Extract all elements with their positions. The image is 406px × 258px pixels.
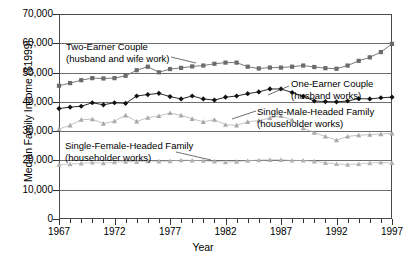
series-label-one-earner-couple: One-Earner Couple (husband works) — [291, 78, 373, 101]
x-tick-1989 — [303, 219, 304, 223]
x-tick-1973 — [126, 219, 127, 223]
x-tick-1992 — [337, 219, 338, 225]
x-tick-1979 — [192, 219, 193, 223]
x-tick-1986 — [270, 219, 271, 223]
x-tick-1969 — [81, 219, 82, 223]
series-label-single-male-headed: Single-Male-Headed Family (householder w… — [257, 106, 374, 129]
gridline-40000 — [60, 102, 391, 103]
series-label-two-earner-line1: Two-Earner Couple — [66, 41, 170, 53]
x-tick-1980 — [203, 219, 204, 223]
y-tick-20000 — [53, 160, 59, 161]
y-axis-labels: 010,00020,00030,00040,00050,00060,00070,… — [0, 0, 53, 258]
gridline-50000 — [60, 73, 391, 74]
x-tick-label-1997: 1997 — [372, 226, 406, 237]
y-tick-label-0: 0 — [1, 214, 53, 224]
x-tick-1975 — [148, 219, 149, 223]
x-tick-1988 — [292, 219, 293, 223]
series-label-single-male-line2: (householder works) — [257, 118, 374, 130]
x-tick-1971 — [103, 219, 104, 223]
x-tick-1984 — [248, 219, 249, 223]
x-tick-label-1987: 1987 — [261, 226, 301, 237]
series-label-single-female-headed: Single-Female-Headed Family (householder… — [65, 140, 193, 163]
x-tick-1977 — [170, 219, 171, 225]
x-tick-1974 — [137, 219, 138, 223]
y-tick-10000 — [53, 190, 59, 191]
x-tick-1982 — [226, 219, 227, 225]
x-tick-1978 — [181, 219, 182, 223]
series-label-single-female-line2: (householder works) — [65, 152, 193, 164]
x-tick-label-1972: 1972 — [95, 226, 135, 237]
series-label-one-earner-line1: One-Earner Couple — [291, 78, 373, 90]
x-tick-1987 — [281, 219, 282, 225]
x-tick-1997 — [392, 219, 393, 225]
y-tick-40000 — [53, 102, 59, 103]
y-tick-0 — [53, 219, 59, 220]
x-tick-label-1977: 1977 — [150, 226, 190, 237]
series-label-two-earner-couple: Two-Earner Couple (husband and wife work… — [66, 41, 170, 64]
y-tick-30000 — [53, 131, 59, 132]
y-tick-label-30000: 30,000 — [1, 126, 53, 136]
x-tick-1972 — [115, 219, 116, 225]
gridline-30000 — [60, 131, 391, 132]
x-tick-1993 — [348, 219, 349, 223]
x-tick-1996 — [381, 219, 382, 223]
x-tick-1970 — [92, 219, 93, 223]
y-tick-70000 — [53, 14, 59, 15]
y-tick-label-40000: 40,000 — [1, 97, 53, 107]
x-tick-1968 — [70, 219, 71, 223]
x-tick-label-1967: 1967 — [39, 226, 79, 237]
y-tick-label-70000: 70,000 — [1, 9, 53, 19]
series-label-one-earner-line2: (husband works) — [291, 90, 373, 102]
y-tick-label-20000: 20,000 — [1, 155, 53, 165]
y-tick-60000 — [53, 43, 59, 44]
x-axis-title: Year — [0, 241, 406, 253]
x-tick-1985 — [259, 219, 260, 223]
x-tick-1967 — [59, 219, 60, 225]
x-tick-1981 — [214, 219, 215, 223]
y-tick-50000 — [53, 73, 59, 74]
x-tick-1976 — [159, 219, 160, 223]
x-tick-1983 — [237, 219, 238, 223]
y-tick-label-10000: 10,000 — [1, 185, 53, 195]
x-tick-1995 — [370, 219, 371, 223]
series-label-single-female-line1: Single-Female-Headed Family — [65, 140, 193, 152]
income-line-chart: Median Family Income ($1999) 010,00020,0… — [0, 0, 406, 258]
series-label-single-male-line1: Single-Male-Headed Family — [257, 106, 374, 118]
gridline-10000 — [60, 190, 391, 191]
x-tick-label-1992: 1992 — [317, 226, 357, 237]
x-tick-label-1982: 1982 — [206, 226, 246, 237]
x-tick-1991 — [325, 219, 326, 223]
series-label-two-earner-line2: (husband and wife work) — [66, 53, 170, 65]
y-tick-label-50000: 50,000 — [1, 68, 53, 78]
y-tick-label-60000: 60,000 — [1, 38, 53, 48]
x-tick-1994 — [359, 219, 360, 223]
x-tick-1990 — [314, 219, 315, 223]
